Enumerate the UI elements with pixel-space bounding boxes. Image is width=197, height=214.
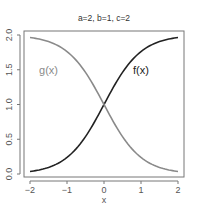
x-tick-label: 2 [175, 185, 180, 195]
plot-curves [30, 38, 178, 172]
x-axis: −2−1012 [25, 181, 181, 195]
y-tick-label: 0.5 [4, 133, 14, 146]
x-tick-label: −1 [62, 185, 72, 195]
chart-canvas: a=2, b=1, c=2 −2−1012 0.00.51.01.52.0 g(… [0, 0, 197, 214]
x-axis-label: x [102, 195, 107, 205]
label-gx: g(x) [39, 64, 58, 76]
label-fx: f(x) [133, 64, 149, 76]
chart-title: a=2, b=1, c=2 [78, 13, 130, 23]
x-tick-label: 0 [101, 185, 106, 195]
y-tick-label: 1.5 [4, 63, 14, 76]
x-tick-label: −2 [25, 185, 35, 195]
y-axis: 0.00.51.01.52.0 [4, 29, 20, 181]
y-tick-label: 0.0 [4, 168, 14, 181]
x-tick-label: 1 [138, 185, 143, 195]
y-tick-label: 2.0 [4, 29, 14, 42]
curve-labels: g(x)f(x) [39, 64, 149, 76]
y-tick-label: 1.0 [4, 98, 14, 111]
curve-gx [30, 38, 178, 172]
